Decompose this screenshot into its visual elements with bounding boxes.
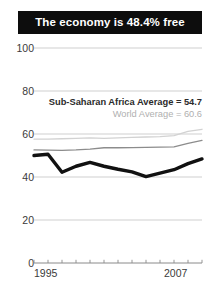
chart-container: The economy is 48.4% free 100 80 60 40 2…	[0, 0, 212, 305]
country-score-line	[34, 154, 202, 176]
plot-svg	[0, 0, 212, 305]
sub-saharan-average-line	[34, 140, 202, 150]
plot-area	[0, 0, 212, 305]
